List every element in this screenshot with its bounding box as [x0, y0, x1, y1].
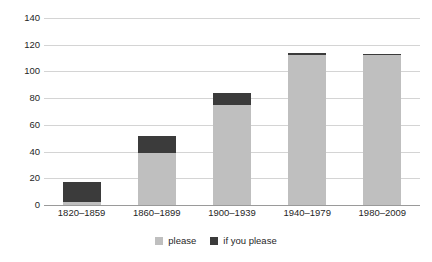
- y-tick-label: 60: [0, 120, 40, 130]
- bar-stack[interactable]: [138, 136, 176, 205]
- bar-stack[interactable]: [363, 54, 401, 205]
- bar-stack[interactable]: [213, 93, 251, 205]
- legend-swatch-icon: [155, 237, 163, 245]
- legend-entry-if-you-please: if you please: [210, 236, 276, 246]
- bar-segment-if-you-please[interactable]: [63, 182, 101, 202]
- bar-stack[interactable]: [288, 53, 326, 205]
- x-tick-label: 1860–1899: [119, 208, 194, 218]
- bar-group: [270, 18, 345, 205]
- bar-segment-please[interactable]: [213, 105, 251, 205]
- y-tick-label: 120: [0, 40, 40, 50]
- bar-group: [119, 18, 194, 205]
- bar-group: [194, 18, 269, 205]
- x-tick-label: 1940–1979: [270, 208, 345, 218]
- stacked-bar-chart: 140 120 100 80 60 40 20 0 1820–1859 1860…: [0, 0, 432, 262]
- axis-baseline: [44, 205, 420, 206]
- legend-label: please: [168, 236, 196, 246]
- bar-segment-if-you-please[interactable]: [213, 93, 251, 105]
- bar-segment-please[interactable]: [63, 202, 101, 205]
- y-tick-label: 0: [0, 200, 40, 210]
- x-axis-tick-labels: 1820–1859 1860–1899 1900–1939 1940–1979 …: [44, 208, 420, 218]
- bar-segment-please[interactable]: [288, 55, 326, 205]
- y-tick-label: 100: [0, 67, 40, 77]
- chart-legend: please if you please: [0, 236, 432, 246]
- legend-entry-please: please: [155, 236, 196, 246]
- legend-label: if you please: [223, 236, 276, 246]
- bar-group: [44, 18, 119, 205]
- bar-segment-please[interactable]: [138, 153, 176, 205]
- y-tick-label: 80: [0, 93, 40, 103]
- legend-swatch-icon: [210, 237, 218, 245]
- bars-layer: [44, 18, 420, 205]
- y-tick-label: 40: [0, 147, 40, 157]
- bar-stack[interactable]: [63, 182, 101, 205]
- bar-group: [345, 18, 420, 205]
- x-tick-label: 1980–2009: [345, 208, 420, 218]
- x-tick-label: 1900–1939: [194, 208, 269, 218]
- x-tick-label: 1820–1859: [44, 208, 119, 218]
- y-tick-label: 140: [0, 13, 40, 23]
- y-tick-label: 20: [0, 174, 40, 184]
- bar-segment-if-you-please[interactable]: [138, 136, 176, 153]
- bar-segment-please[interactable]: [363, 55, 401, 205]
